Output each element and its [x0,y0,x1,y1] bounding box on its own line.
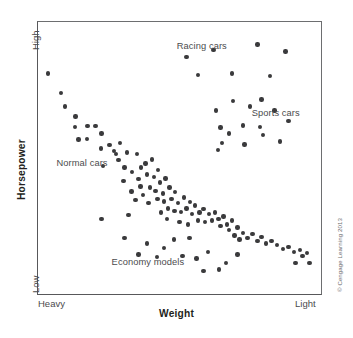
scatter-point [258,125,262,129]
scatter-point [224,261,228,265]
scatter-point [167,185,171,189]
scatter-point [114,152,118,156]
scatter-point [172,237,176,241]
scatter-point [130,170,134,174]
scatter-point [206,250,210,254]
scatter-point [230,71,234,75]
scatter-point [46,71,50,75]
scatter-point [275,243,279,247]
scatter-point [165,217,169,221]
scatter-point [129,189,133,193]
cluster-label-economy-models: Economy models [112,257,185,267]
scatter-point [182,195,186,199]
scatter-point [126,213,130,217]
scatter-point [203,220,207,224]
scatter-point [122,165,126,169]
scatter-point [278,139,282,143]
scatter-point [221,214,225,218]
scatter-point [307,261,311,265]
scatter-point [298,248,302,252]
scatter-point [214,108,218,112]
scatter-point [139,165,143,169]
scatter-point [194,256,198,260]
scatter-point [190,212,194,216]
scatter-point [259,235,263,239]
scatter-point [99,217,103,221]
scatter-point [227,131,231,135]
scatter-point [133,198,137,202]
scatter-point [169,197,173,201]
scatter-point [245,236,249,240]
scatter-point [63,104,67,108]
scatter-point [156,168,160,172]
scatter-point [242,142,246,146]
scatter-point [259,97,263,101]
scatter-point [216,217,220,221]
scatter-point [220,141,224,145]
scatter-point [286,119,290,123]
scatter-point [125,150,129,154]
y-axis-title: Horsepower [16,139,27,200]
scatter-point [235,225,239,229]
scatter-point [293,261,297,265]
scatter-point [162,199,166,203]
scatter-point [196,218,200,222]
scatter-point [76,137,80,141]
scatter-point [232,233,236,237]
scatter-point [261,133,265,137]
scatter-point [237,237,241,241]
scatter-point [300,254,304,258]
scatter-point [159,210,163,214]
scatter-point [99,146,103,150]
scatter-point [161,191,165,195]
scatter-point [85,124,89,128]
cluster-label-sports-cars: Sports cars [252,108,300,118]
scatter-point [231,99,235,103]
scatter-point [148,185,152,189]
scatter-point [145,241,149,245]
scatter-point [136,177,140,181]
scatter-point [107,143,111,147]
scatter-point [184,206,188,210]
scatter-point [99,131,103,135]
scatter-point [143,161,147,165]
scatter-point [269,239,273,243]
scatter-point [179,210,183,214]
scatter-point [283,49,287,53]
copyright-notice: © Cengage Learning 2013 [336,218,343,292]
scatter-point [145,172,149,176]
scatter-point [85,137,89,141]
scatter-figure: Racing carsSports carsNormal carsEconomy… [0,0,353,338]
scatter-point [201,207,205,211]
scatter-point [250,232,254,236]
scatter-point [255,42,259,46]
scatter-point [210,218,214,222]
scatter-point [235,252,239,256]
scatter-point [207,212,211,216]
scatter-point [225,222,229,226]
cluster-label-normal-cars: Normal cars [56,158,107,168]
scatter-point [241,123,245,127]
scatter-point [193,203,197,207]
y-axis-tick-low: Low [30,276,41,293]
scatter-point [217,267,221,271]
scatter-point [163,176,167,180]
scatter-point [136,252,140,256]
scatter-point [201,269,205,273]
scatter-point [162,246,166,250]
scatter-point [184,55,188,59]
scatter-point [241,231,245,235]
scatter-point [177,220,181,224]
scatter-point [146,201,150,205]
scatter-point [152,175,156,179]
scatter-point [141,193,145,197]
scatter-point [196,73,200,77]
scatter-point [305,251,309,255]
scatter-point [187,236,191,240]
scatter-point [155,197,159,201]
x-axis-title: Weight [0,308,353,319]
scatter-point [73,114,77,118]
y-axis-tick-high: High [30,30,41,50]
scatter-point [188,200,192,204]
scatter-point [135,152,139,156]
